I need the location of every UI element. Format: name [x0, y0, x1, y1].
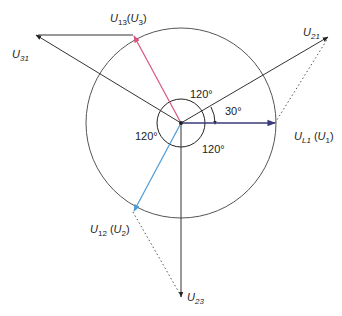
label-u23: U23 — [187, 291, 204, 306]
angle-label-30: 30° — [225, 105, 242, 117]
label-u31: U31 — [12, 48, 29, 63]
label-ul1: UL1 (U1) — [294, 130, 334, 145]
dotted-u2-u23 — [133, 212, 181, 296]
label-u21: U21 — [303, 26, 320, 41]
angle-label-left: 120° — [135, 130, 158, 142]
angle-arc-30 — [211, 107, 215, 123]
phasor-u3 — [134, 36, 181, 123]
label-u12: U12 (U2) — [90, 223, 130, 238]
phasor-diagram: U31 U13(U3) U21 UL1 (U1) U12 (U2) U23 12… — [0, 0, 342, 316]
label-u13: U13(U3) — [110, 12, 147, 27]
angle-label-bottom: 120° — [202, 143, 225, 155]
phasor-u21 — [181, 37, 328, 123]
origin-point — [179, 121, 183, 125]
angle-label-top: 120° — [190, 88, 213, 100]
dotted-u1-u21 — [275, 38, 328, 123]
phasor-u31 — [36, 35, 181, 123]
